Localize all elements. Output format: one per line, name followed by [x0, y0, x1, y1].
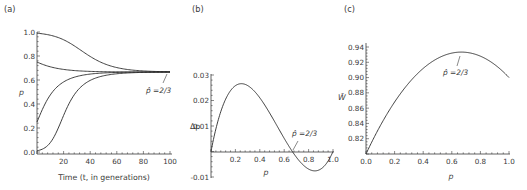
panel-c-y-label: W̄ — [338, 93, 346, 102]
panel-b-y-tick-label: 0.02 — [193, 96, 209, 105]
panel-a-annotation-leader — [163, 74, 167, 83]
panel-a-x-label: Time (t, in generations) — [57, 173, 150, 182]
panel-c-x-tick-label: 0.4 — [417, 157, 429, 166]
panel-c-y-tick-label: 0.90 — [348, 73, 364, 82]
panel-b-label: (b) — [192, 4, 204, 14]
panel-b-x-tick-label: 0.8 — [303, 155, 315, 164]
panel-b-annotation-leader — [293, 141, 298, 150]
figure: (a) 204060801000.00.20.40.60.81.0 Time (… — [0, 0, 527, 190]
panel-b: (b) 0.20.40.60.81.0-0.010.010.020.03 p Δ… — [190, 4, 339, 182]
panel-b-x-tick-label: 0.2 — [230, 155, 241, 164]
panel-a-y-tick-label: 0.0 — [24, 148, 36, 157]
panel-a-series-line-4 — [37, 72, 170, 151]
panel-b-x-tick-label: 0.4 — [254, 155, 266, 164]
panel-a-y-tick-label: 0.6 — [24, 76, 36, 85]
panel-a-series-line-1 — [37, 33, 170, 72]
panel-c-x-tick-label: 0.2 — [389, 157, 400, 166]
panel-b-x-tick-label: 0.6 — [278, 155, 290, 164]
panel-c: (c) 0.00.20.40.60.81.00.820.840.860.880.… — [338, 4, 515, 181]
panel-c-y-tick-label: 0.82 — [348, 134, 364, 143]
panel-b-x-tick-label: 1.0 — [327, 155, 339, 164]
panel-b-y-tick-label: -0.01 — [190, 173, 209, 182]
panel-c-label: (c) — [344, 4, 355, 14]
panel-a-label: (a) — [4, 4, 15, 14]
panel-a-y-label: p — [18, 88, 24, 97]
panel-a-series-line-3 — [37, 72, 170, 122]
panel-b-y-tick-label: 0.03 — [193, 71, 209, 80]
panel-c-x-tick-label: 0.8 — [475, 157, 487, 166]
panel-a-y-tick-label: 0.4 — [24, 100, 36, 109]
panel-a-y-tick-label: 1.0 — [24, 28, 36, 37]
panel-a-annotation: p̂ =2/3 — [145, 86, 171, 95]
panel-a-x-label-text: Time (t, in generations) — [57, 173, 150, 182]
panel-a-y-tick-label: 0.8 — [24, 52, 36, 61]
panel-c-x-tick-label: 0.6 — [446, 157, 458, 166]
panel-c-x-tick-label: 1.0 — [503, 157, 515, 166]
panel-c-annotation: p̂ =2/3 — [442, 68, 468, 77]
panel-c-annotation-leader — [457, 56, 460, 66]
panel-c-y-tick-label: 0.92 — [348, 58, 364, 67]
panel-b-x-label: p — [263, 168, 269, 177]
panel-c-y-tick-label: 0.94 — [348, 43, 364, 52]
panel-c-y-tick-label: 0.86 — [348, 104, 364, 113]
panel-b-y-label: Δp — [190, 122, 200, 131]
panel-c-y-tick-label: 0.88 — [348, 88, 364, 97]
panel-a-x-tick-label: 100 — [163, 157, 177, 166]
panel-c-mean-fitness-curve — [366, 52, 509, 154]
panel-a: (a) 204060801000.00.20.40.60.81.0 Time (… — [4, 4, 177, 182]
panel-b-annotation: p̂ =2/3 — [291, 129, 317, 138]
panel-a-y-tick-label: 0.2 — [24, 124, 35, 133]
panel-a-x-tick-label: 80 — [139, 157, 149, 166]
panel-a-x-tick-label: 60 — [112, 157, 122, 166]
panel-a-x-tick-label: 40 — [86, 157, 96, 166]
panel-c-x-tick-label: 0.0 — [360, 157, 372, 166]
panel-c-y-tick-label: 0.84 — [348, 119, 364, 128]
panel-a-x-tick-label: 20 — [59, 157, 69, 166]
panel-c-x-label: p — [448, 172, 454, 181]
